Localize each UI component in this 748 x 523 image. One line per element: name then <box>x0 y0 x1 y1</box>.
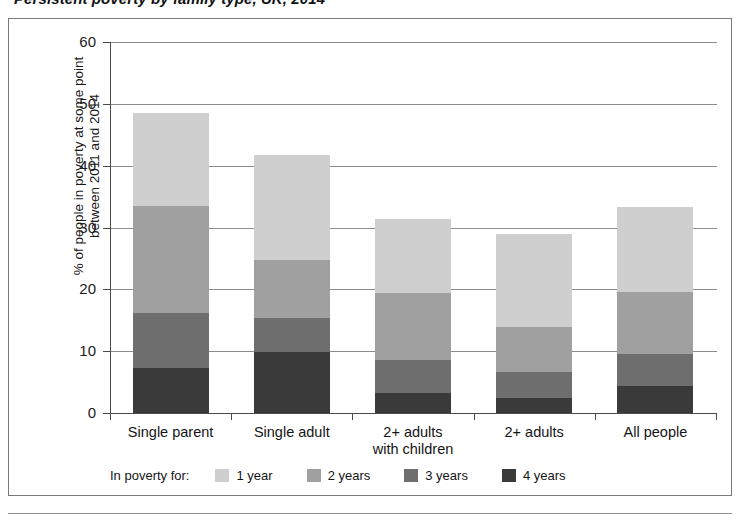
bar-segment[interactable] <box>496 398 572 413</box>
page-title: Persistent poverty by family type, UK, 2… <box>14 0 325 7</box>
bar-segment[interactable] <box>617 292 693 354</box>
figure-bottom-rule <box>8 513 732 514</box>
bar-group[interactable] <box>496 42 572 413</box>
bar-segment[interactable] <box>254 318 330 352</box>
bar-group[interactable] <box>133 42 209 413</box>
x-tick-mark <box>231 413 232 420</box>
legend-item[interactable]: 2 years <box>307 468 371 483</box>
x-axis-label-line-2: with children <box>338 441 488 458</box>
x-tick-mark <box>595 413 596 420</box>
bar-segment[interactable] <box>133 206 209 313</box>
bar-segment[interactable] <box>133 313 209 368</box>
bar-segment[interactable] <box>496 234 572 327</box>
legend-item[interactable]: 3 years <box>404 468 468 483</box>
legend-label: 4 years <box>523 468 566 483</box>
bar-segment[interactable] <box>375 293 451 360</box>
y-tick-label-0: 0 <box>50 404 96 421</box>
bar-segment[interactable] <box>617 386 693 413</box>
y-tick-label-20: 20 <box>50 280 96 297</box>
y-tick-label-30: 30 <box>50 219 96 236</box>
bar-segment[interactable] <box>375 360 451 393</box>
plot-area <box>110 42 716 413</box>
legend-label: 3 years <box>425 468 468 483</box>
legend-items: 1 year2 years3 years4 years <box>215 468 599 483</box>
y-axis-tick-labels: 0102030405060 <box>44 42 96 413</box>
bar-segment[interactable] <box>254 155 330 259</box>
y-tick-label-10: 10 <box>50 342 96 359</box>
x-axis-label-4: All people <box>580 424 730 441</box>
y-tick-label-40: 40 <box>50 157 96 174</box>
legend: In poverty for: 1 year2 years3 years4 ye… <box>110 468 600 483</box>
x-axis-label-line-1: All people <box>580 424 730 441</box>
legend-swatch <box>307 469 321 482</box>
bar-segment[interactable] <box>496 327 572 372</box>
bar-segment[interactable] <box>133 113 209 206</box>
legend-label: 2 years <box>328 468 371 483</box>
y-tick-label-60: 60 <box>50 33 96 50</box>
bar-group[interactable] <box>375 42 451 413</box>
bar-segment[interactable] <box>375 393 451 413</box>
legend-item[interactable]: 1 year <box>215 468 272 483</box>
x-tick-mark <box>716 413 717 420</box>
legend-swatch <box>502 469 516 482</box>
legend-label: 1 year <box>236 468 272 483</box>
x-tick-mark <box>474 413 475 420</box>
bar-segment[interactable] <box>617 207 693 292</box>
bar-segment[interactable] <box>254 260 330 318</box>
bar-segment[interactable] <box>496 372 572 398</box>
bar-segment[interactable] <box>617 354 693 386</box>
bar-segment[interactable] <box>375 219 451 293</box>
legend-title: In poverty for: <box>110 468 189 483</box>
x-tick-mark <box>352 413 353 420</box>
bar-group[interactable] <box>617 42 693 413</box>
legend-swatch <box>215 469 229 482</box>
y-tick-label-50: 50 <box>50 95 96 112</box>
bar-segment[interactable] <box>254 352 330 413</box>
x-axis-line <box>110 413 717 414</box>
bar-group[interactable] <box>254 42 330 413</box>
x-tick-mark <box>110 413 111 420</box>
legend-item[interactable]: 4 years <box>502 468 566 483</box>
bar-segment[interactable] <box>133 368 209 413</box>
legend-swatch <box>404 469 418 482</box>
